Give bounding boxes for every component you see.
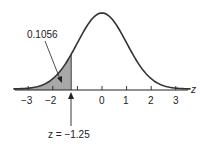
chart-svg: −3 −2 0 1 2 3 z 0.1056 z = −1.25 (0, 0, 208, 147)
normal-curve (13, 13, 190, 89)
tick-label-2: 2 (148, 95, 154, 106)
area-label: 0.1056 (27, 29, 58, 40)
tick-label-neg3: −3 (21, 95, 33, 106)
zvalue-arrowhead-icon (68, 92, 74, 99)
tick-label-0: 0 (99, 95, 105, 106)
tick-label-3: 3 (173, 95, 179, 106)
normal-curve-figure: −3 −2 0 1 2 3 z 0.1056 z = −1.25 (0, 0, 208, 147)
area-pointer-arrow (45, 41, 60, 79)
zvalue-label: z = −1.25 (48, 129, 90, 140)
axis-variable-label: z (190, 84, 196, 95)
tick-label-neg2: −2 (45, 95, 57, 106)
tick-label-1: 1 (123, 95, 129, 106)
